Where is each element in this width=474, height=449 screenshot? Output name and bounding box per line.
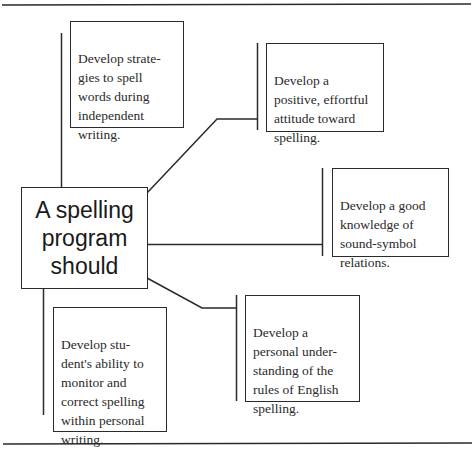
top-rule bbox=[2, 4, 471, 5]
branch-text: Develop stu- dent's ability to monitor a… bbox=[61, 337, 145, 447]
connector-rules bbox=[147, 278, 236, 308]
central-concept-label: A spelling program should bbox=[35, 196, 133, 280]
branch-box-sound-symbol: Develop a good knowledge of sound-symbol… bbox=[332, 168, 449, 257]
central-concept-box: A spelling program should bbox=[21, 187, 148, 289]
branch-box-rules: Develop a personal under- standing of th… bbox=[245, 295, 360, 402]
branch-box-attitude: Develop a positive, effortful attitude t… bbox=[266, 43, 384, 132]
connector-attitude bbox=[147, 119, 257, 193]
branch-box-strategies: Develop strate- gies to spell words duri… bbox=[70, 21, 184, 128]
spelling-program-diagram: A spelling program should Develop strate… bbox=[0, 0, 474, 449]
branch-box-monitor: Develop stu- dent's ability to monitor a… bbox=[53, 307, 167, 432]
